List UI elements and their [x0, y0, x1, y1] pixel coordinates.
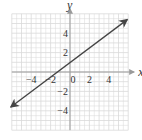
x-axis-label: x — [137, 65, 142, 79]
x-tick-label: −4 — [26, 74, 37, 85]
y-tick-label: −2 — [57, 86, 68, 97]
x-tick-label: 2 — [87, 74, 92, 85]
data-line — [11, 20, 127, 107]
y-tick-label: 4 — [63, 28, 68, 39]
y-tick-label: 2 — [63, 47, 68, 58]
y-axis-label: y — [66, 0, 73, 12]
x-tick-label: 4 — [106, 74, 111, 85]
coordinate-plane: xy−4−202442−2−4 — [0, 0, 142, 140]
x-tick-label: 0 — [71, 74, 76, 85]
y-tick-label: −4 — [57, 105, 68, 116]
